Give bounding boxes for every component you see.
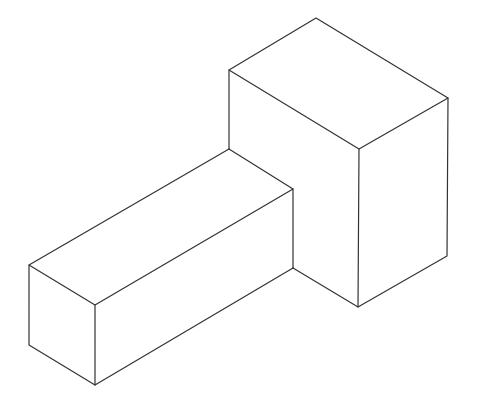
tall-box: [229, 18, 448, 307]
long-box-bottom-edge: [95, 268, 293, 385]
long-box-top-edges: [29, 149, 293, 305]
isometric-drawing: [0, 0, 479, 413]
long-box: [29, 149, 293, 385]
long-box-left-face-edges: [29, 265, 95, 385]
